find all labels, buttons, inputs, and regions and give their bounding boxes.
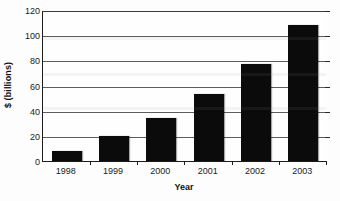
y-axis-tick-label: 120 xyxy=(14,6,40,16)
x-axis-tick xyxy=(232,161,233,165)
y-axis-tick-label: 100 xyxy=(14,31,40,41)
y-axis-tick-label: 60 xyxy=(14,82,40,92)
x-axis-tick-labels: 199819992000200120022003 xyxy=(42,166,326,180)
bar-chart-figure: $ (billions) 020406080100120 19981999200… xyxy=(0,0,340,201)
bar-1998 xyxy=(52,151,82,161)
y-axis-tick-labels: 020406080100120 xyxy=(14,6,40,162)
bar-slot xyxy=(43,11,90,161)
y-axis-title-label: $ (billions) xyxy=(3,62,13,108)
x-axis-tick-label: 2002 xyxy=(235,166,275,177)
y-axis-tick-label: 20 xyxy=(14,132,40,142)
bar-2000 xyxy=(146,118,176,161)
bar-slot xyxy=(138,11,185,161)
x-axis-tick-label: 1998 xyxy=(46,166,86,177)
bar-2001 xyxy=(194,94,224,161)
x-axis-tick-label: 2003 xyxy=(282,166,322,177)
x-axis-tick xyxy=(90,161,91,165)
y-axis-tick-label: 80 xyxy=(14,56,40,66)
bar-slot xyxy=(280,11,327,161)
bars-layer xyxy=(43,11,326,161)
x-axis-tick xyxy=(326,161,327,165)
bar-slot xyxy=(185,11,232,161)
x-axis-tick-label: 2001 xyxy=(188,166,228,177)
x-axis-title: Year xyxy=(42,182,326,192)
bar-slot xyxy=(232,11,279,161)
x-axis-tick xyxy=(279,161,280,165)
bar-2003 xyxy=(288,25,318,161)
plot-area xyxy=(42,11,326,162)
x-axis-tick-label: 1999 xyxy=(93,166,133,177)
y-axis-tick-label: 40 xyxy=(14,107,40,117)
bar-2002 xyxy=(241,64,271,161)
y-axis-tick-label: 0 xyxy=(14,157,40,167)
bar-1999 xyxy=(99,136,129,161)
x-axis-tick-label: 2000 xyxy=(140,166,180,177)
x-axis-tick xyxy=(184,161,185,165)
x-axis-tick xyxy=(137,161,138,165)
bar-slot xyxy=(90,11,137,161)
